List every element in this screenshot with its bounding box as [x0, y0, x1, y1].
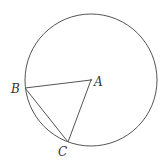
segment-ac	[68, 80, 91, 142]
point-a-dot	[90, 79, 92, 81]
label-b: B	[10, 82, 20, 96]
geometry-diagram: A B C	[0, 0, 165, 168]
label-c: C	[58, 145, 67, 159]
segment-ba	[25, 80, 91, 88]
label-a: A	[93, 75, 103, 89]
segment-bc	[25, 88, 68, 142]
